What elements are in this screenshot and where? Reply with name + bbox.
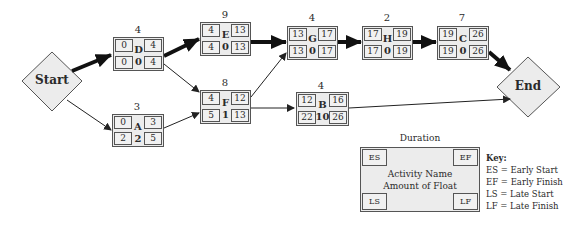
key-ls: LS	[362, 193, 387, 210]
start-label: Start	[22, 73, 82, 87]
key-duration-label: Duration	[360, 133, 480, 143]
duration-b: 4	[296, 80, 346, 91]
duration-c: 7	[437, 12, 487, 23]
end-label: End	[498, 79, 558, 93]
activity-node-h: 17 19 H 0 17 19	[362, 26, 413, 60]
key-node-template: ES EF Activity Name Amount of Float LS L…	[360, 147, 480, 212]
key-lf: LF	[453, 193, 478, 210]
duration-d: 4	[113, 24, 163, 35]
activity-node-d: 0 4 D 0 0 4	[113, 37, 164, 71]
edge-f-g	[251, 53, 286, 97]
key-ef: EF	[453, 149, 478, 166]
ls-h: 17	[364, 45, 382, 58]
edge-b-end	[349, 99, 510, 108]
lf-a: 5	[144, 132, 162, 145]
duration-g: 4	[287, 12, 337, 23]
key-activity-name: Activity Name	[361, 168, 479, 180]
key-legend-item: LF = Late Finish	[486, 200, 563, 212]
key-center-text: Activity Name Amount of Float	[361, 168, 479, 192]
key-es: ES	[362, 149, 387, 166]
edge-c-end	[489, 52, 510, 70]
duration-h: 2	[362, 12, 412, 23]
activity-node-c: 19 26 C 0 19 26	[437, 26, 489, 60]
duration-f: 8	[200, 77, 250, 88]
activity-node-g: 13 17 G 0 13 17	[287, 26, 338, 60]
name-c: C	[438, 33, 488, 44]
activity-node-f: 4 12 F 1 5 13	[200, 90, 251, 124]
lf-h: 19	[393, 45, 411, 58]
key-legend-item: ES = Early Start	[486, 164, 563, 176]
name-b: B	[297, 99, 348, 110]
lf-e: 13	[231, 41, 249, 54]
edge-start-d	[72, 55, 111, 71]
name-h: H	[363, 33, 412, 44]
key-amount-of-float: Amount of Float	[361, 180, 479, 192]
lf-d: 4	[144, 56, 162, 69]
key-legend-item: LS = Late Start	[486, 188, 563, 200]
activity-node-e: 4 13 E 0 4 13	[200, 22, 251, 56]
activity-node-b: 12 16 B 10 22 26	[296, 92, 349, 126]
lf-c: 26	[469, 45, 487, 58]
key-legend-item: EF = Early Finish	[486, 176, 563, 188]
ls-f: 5	[202, 109, 220, 122]
edge-start-a	[67, 100, 111, 130]
name-g: G	[288, 33, 337, 44]
ls-d: 0	[115, 56, 133, 69]
edge-d-f	[164, 64, 199, 92]
name-a: A	[113, 121, 163, 132]
edge-d-e	[164, 39, 199, 56]
ls-e: 4	[202, 41, 220, 54]
name-e: E	[201, 29, 250, 40]
lf-g: 17	[318, 45, 336, 58]
edge-a-f	[164, 113, 199, 128]
ls-b: 22	[298, 111, 316, 124]
key-legend-title: Key:	[486, 152, 563, 164]
ls-g: 13	[289, 45, 307, 58]
key-legend: Key: ES = Early Start EF = Early Finish …	[486, 152, 563, 212]
ls-c: 19	[439, 45, 457, 58]
ls-a: 2	[114, 132, 132, 145]
duration-e: 9	[200, 9, 250, 20]
activity-node-a: 0 3 A 2 2 5	[112, 114, 164, 147]
name-f: F	[201, 97, 250, 108]
name-d: D	[114, 44, 163, 55]
lf-b: 26	[329, 111, 347, 124]
lf-f: 13	[231, 109, 249, 122]
duration-a: 3	[112, 101, 162, 112]
